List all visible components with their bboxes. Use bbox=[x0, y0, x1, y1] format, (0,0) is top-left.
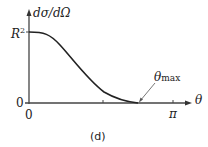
y-axis-label: dσ/dΩ bbox=[33, 7, 71, 19]
theta-max-annotation: θmax bbox=[154, 71, 180, 83]
ytick-label-zero: 0 bbox=[16, 97, 24, 109]
cross-section-curve bbox=[29, 32, 138, 103]
ytick-r: R bbox=[11, 27, 20, 41]
figure-caption: (d) bbox=[90, 131, 106, 142]
annot-sub: max bbox=[161, 73, 180, 83]
x-axis-label: θ bbox=[195, 94, 202, 106]
ytick-label-r2: R2 bbox=[11, 27, 25, 40]
ytick-sup: 2 bbox=[20, 26, 25, 35]
theta-max-pointer bbox=[140, 83, 155, 101]
y-axis-arrow-icon bbox=[27, 9, 32, 16]
x-axis-arrow-icon bbox=[185, 101, 192, 106]
xtick-label-zero: 0 bbox=[25, 109, 33, 121]
xtick-label-pi: π bbox=[169, 108, 177, 120]
